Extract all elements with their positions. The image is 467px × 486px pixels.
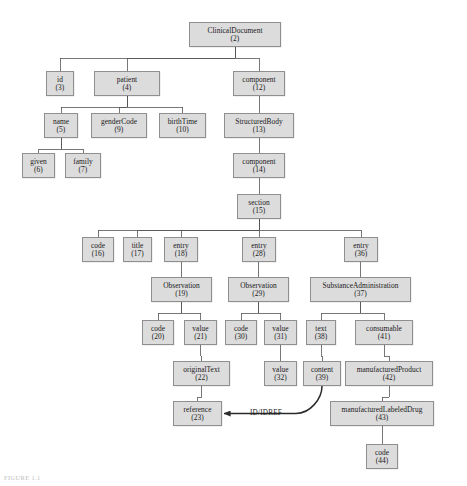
- node-code: code(44): [366, 444, 398, 469]
- node-number: (3): [56, 84, 65, 92]
- cda-document-tree-diagram: ClinicalDocument(2)id(3)patient(4)compon…: [0, 0, 467, 486]
- node-entry: entry(18): [164, 237, 198, 262]
- node-number: (12): [253, 84, 266, 92]
- node-patient: patient(4): [94, 71, 160, 96]
- node-number: (31): [274, 333, 287, 341]
- node-clinicaldocument: ClinicalDocument(2): [189, 22, 281, 47]
- node-number: (36): [355, 250, 368, 258]
- node-number: (32): [274, 374, 287, 382]
- node-manufacturedproduct: manufacturedProduct(42): [345, 361, 433, 386]
- node-observation: Observation(19): [151, 277, 212, 302]
- node-entry: entry(28): [242, 237, 276, 262]
- node-number: (44): [376, 457, 389, 465]
- node-id: id(3): [46, 71, 74, 96]
- node-code: code(30): [225, 320, 257, 345]
- node-number: (10): [176, 126, 189, 134]
- node-number: (39): [316, 374, 329, 382]
- node-number: (28): [253, 250, 266, 258]
- node-text: text(38): [306, 320, 336, 345]
- node-number: (15): [253, 207, 266, 215]
- node-value: value(32): [264, 361, 297, 386]
- node-number: (20): [152, 333, 165, 341]
- node-family: family(7): [65, 153, 101, 178]
- node-number: (23): [191, 414, 204, 422]
- node-manufacturedlabeleddrug: manufacturedLabeledDrug(43): [330, 401, 434, 426]
- node-number: (21): [194, 333, 207, 341]
- node-number: (42): [383, 374, 396, 382]
- node-number: (37): [354, 290, 367, 298]
- node-name: name(5): [44, 113, 78, 138]
- node-birthtime: birthTime(10): [159, 113, 206, 138]
- node-number: (6): [34, 166, 43, 174]
- figure-caption: FIGURE 1.1: [4, 474, 41, 481]
- node-number: (7): [79, 166, 88, 174]
- node-number: (9): [115, 126, 124, 134]
- node-number: (43): [376, 414, 389, 422]
- node-number: (30): [235, 333, 248, 341]
- node-component: component(14): [233, 153, 285, 178]
- node-code: code(20): [142, 320, 174, 345]
- node-number: (38): [315, 333, 328, 341]
- node-given: given(6): [22, 153, 55, 178]
- node-entry: entry(36): [344, 237, 378, 262]
- node-number: (4): [123, 84, 132, 92]
- node-component: component(12): [233, 71, 285, 96]
- node-substanceadministration: SubstanceAdministration(37): [310, 277, 411, 302]
- node-number: (16): [92, 250, 105, 258]
- node-number: (2): [231, 35, 240, 43]
- node-content: content(39): [303, 361, 341, 386]
- node-number: (13): [253, 126, 266, 134]
- node-number: (17): [131, 250, 144, 258]
- node-value: value(31): [264, 320, 297, 345]
- node-number: (41): [378, 333, 391, 341]
- node-gendercode: genderCode(9): [91, 113, 147, 138]
- node-structuredbody: StructuredBody(13): [224, 113, 294, 138]
- idref-edge-label: ID/IDREF: [250, 409, 282, 417]
- node-code: code(16): [82, 237, 114, 262]
- node-reference: reference(23): [173, 401, 222, 426]
- node-consumable: consumable(41): [355, 320, 413, 345]
- node-number: (14): [253, 166, 266, 174]
- node-observation: Observation(29): [228, 277, 289, 302]
- node-number: (22): [195, 374, 208, 382]
- node-originaltext: originalText(22): [173, 361, 230, 386]
- node-title: title(17): [123, 237, 152, 262]
- node-section: section(15): [237, 194, 281, 219]
- node-number: (29): [252, 290, 265, 298]
- node-number: (5): [57, 126, 66, 134]
- node-number: (18): [175, 250, 188, 258]
- node-value: value(21): [184, 320, 217, 345]
- node-number: (19): [175, 290, 188, 298]
